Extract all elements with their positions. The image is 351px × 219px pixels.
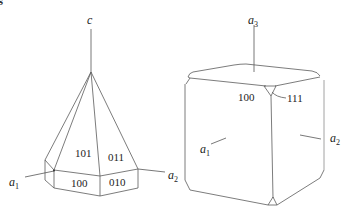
a1-subscript: 1 [15, 182, 19, 191]
pyramid-c-axis-label: c [87, 14, 92, 26]
cube-corner-facet-top-left [186, 77, 190, 84]
cube-face-111-label: 111 [287, 93, 303, 104]
cube-a2-subscript: 2 [336, 138, 340, 147]
cube-a2-axis-label: a2 [330, 132, 340, 147]
cube-a2-axis [300, 135, 321, 139]
crystal-diagram [0, 0, 351, 219]
pyramid-face-011-label: 011 [108, 152, 124, 163]
cube-111-leader [272, 92, 286, 98]
pyramid-a1-axis [25, 171, 54, 177]
pyramid-face-010-label: 010 [109, 177, 126, 188]
pyramid-face-100-label: 100 [71, 178, 88, 189]
pyramid-a1-axis-label: a1 [9, 176, 19, 191]
cube-a3-axis-label: a3 [248, 14, 258, 29]
cube-crystal [185, 25, 324, 205]
cube-a1-subscript: 1 [206, 149, 210, 158]
pyramid-face-101-label: 101 [75, 148, 92, 159]
cube-facet-111-bottom [268, 197, 277, 205]
cube-bottom-left-edge [185, 180, 268, 205]
cube-top-front-left-edge [190, 78, 266, 86]
a3-subscript: 3 [254, 20, 258, 29]
a2-subscript: 2 [174, 175, 178, 184]
cube-front-edge [271, 96, 273, 198]
cube-a1-axis [211, 138, 226, 144]
pyramid-a2-axis [138, 169, 165, 172]
pyramid-crystal [25, 29, 165, 196]
cube-bottom-right-edge [277, 170, 324, 205]
cube-top-front-right-edge [275, 77, 320, 86]
cube-a1-axis-label: a1 [200, 143, 210, 158]
pyramid-origin-dot [53, 170, 55, 172]
cube-face-100-label: 100 [238, 92, 255, 103]
pyramid-a2-axis-label: a2 [168, 169, 178, 184]
